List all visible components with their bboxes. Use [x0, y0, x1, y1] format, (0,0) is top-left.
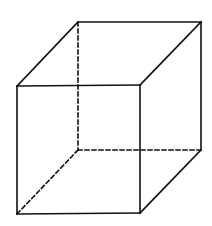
visible-edge: [140, 22, 201, 85]
visible-edge: [17, 22, 78, 86]
cube-wireframe: [0, 0, 212, 226]
hidden-edge: [17, 150, 78, 214]
cube-diagram: [0, 0, 212, 226]
visible-edge: [17, 85, 140, 86]
visible-edge: [17, 213, 140, 214]
visible-edge: [140, 150, 201, 213]
